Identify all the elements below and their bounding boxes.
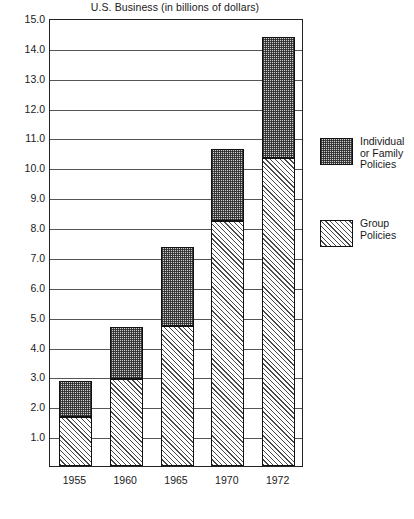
y-axis-tick-label: 13.0 <box>1 73 45 85</box>
bar-1972 <box>262 37 295 466</box>
bar-segment-individual-1960 <box>110 327 143 379</box>
y-axis-tick-label: 7.0 <box>1 252 45 264</box>
bar-1970 <box>211 149 244 466</box>
bar-segment-individual-1965 <box>161 247 194 326</box>
bar-segment-group-1970 <box>211 221 244 466</box>
bar-segment-group-1955 <box>59 417 92 466</box>
plot-area <box>49 19 303 467</box>
bar-1960 <box>110 327 143 466</box>
bar-1965 <box>161 246 194 466</box>
y-axis: 1.02.03.04.05.06.07.08.09.010.011.012.01… <box>0 19 45 467</box>
y-axis-tick-label: 2.0 <box>1 401 45 413</box>
x-axis-tick-label-1970: 1970 <box>215 474 238 486</box>
legend-label: Individual or Family Policies <box>360 136 404 171</box>
y-axis-tick-label: 11.0 <box>1 132 45 144</box>
x-axis-tick-label-1955: 1955 <box>63 474 86 486</box>
bar-segment-individual-1972 <box>262 37 295 158</box>
legend-label: Group Policies <box>360 218 396 241</box>
y-axis-tick-label: 9.0 <box>1 192 45 204</box>
y-axis-tick-label: 15.0 <box>1 13 45 25</box>
y-axis-tick-label: 4.0 <box>1 342 45 354</box>
legend-swatch-stipple-dot <box>320 138 353 165</box>
bar-segment-individual-1955 <box>59 381 92 417</box>
bar-segment-group-1960 <box>110 379 143 466</box>
y-axis-tick-label: 3.0 <box>1 371 45 383</box>
chart-title: U.S. Business (in billions of dollars) <box>48 1 302 13</box>
x-axis-tick-label-1965: 1965 <box>164 474 187 486</box>
y-axis-tick-label: 1.0 <box>1 431 45 443</box>
x-axis-tick-label-1972: 1972 <box>266 474 289 486</box>
bar-segment-individual-1970 <box>211 149 244 221</box>
y-axis-tick-label: 8.0 <box>1 222 45 234</box>
bar-1955 <box>59 381 92 466</box>
chart-container: U.S. Business (in billions of dollars) 1… <box>0 0 414 519</box>
y-axis-tick-label: 12.0 <box>1 103 45 115</box>
legend-swatch-diagonal-hatch <box>320 220 353 247</box>
bar-segment-group-1965 <box>161 326 194 466</box>
bar-segment-group-1972 <box>262 158 295 466</box>
y-axis-tick-label: 10.0 <box>1 162 45 174</box>
y-axis-tick-label: 6.0 <box>1 282 45 294</box>
y-axis-tick-label: 5.0 <box>1 312 45 324</box>
x-axis-tick-label-1960: 1960 <box>114 474 137 486</box>
y-axis-tick-label: 14.0 <box>1 43 45 55</box>
